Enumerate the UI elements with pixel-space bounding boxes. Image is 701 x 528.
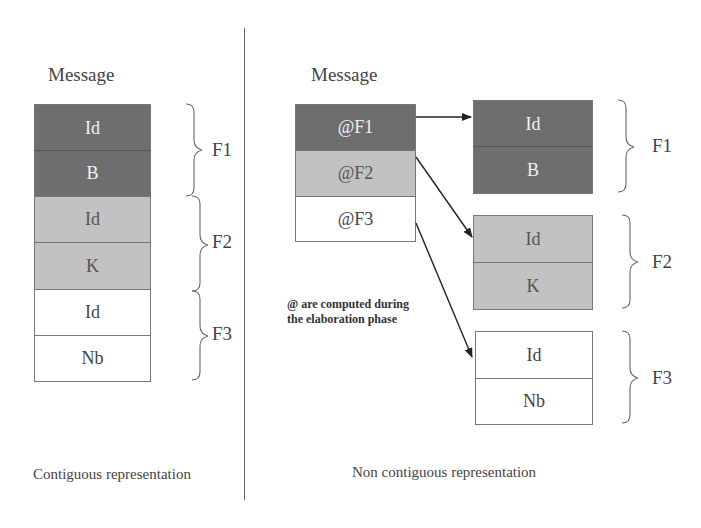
fragment-f2-k: K <box>473 262 593 310</box>
brace-left-f3 <box>192 291 208 380</box>
left-cell-f2-id: Id <box>34 196 151 243</box>
left-cell-f1-id: Id <box>34 104 151 151</box>
right-caption: Non contiguous representation <box>352 464 536 481</box>
fragment-f3-id: Id <box>475 331 593 379</box>
brace-right-f3 <box>622 331 638 423</box>
pointer-cell-f2: @F2 <box>295 150 416 197</box>
right-group-label-f2: F2 <box>652 251 672 273</box>
note-line-2: the elaboration phase <box>287 312 409 327</box>
diagram-canvas: Message Id B Id K Id Nb F1 F2 F3 Contigu… <box>0 0 701 528</box>
pointer-cell-f1: @F1 <box>295 104 416 151</box>
section-divider <box>244 28 245 500</box>
right-group-label-f3: F3 <box>652 367 672 389</box>
left-caption: Contiguous representation <box>33 466 191 483</box>
elaboration-note: @ are computed during the elaboration ph… <box>287 297 409 327</box>
arrow-f2 <box>416 157 472 237</box>
left-group-label-f3: F3 <box>212 323 232 345</box>
pointer-cell-f3: @F3 <box>295 196 416 242</box>
right-group-label-f1: F1 <box>652 135 672 157</box>
arrow-f3 <box>416 223 472 357</box>
left-group-label-f1: F1 <box>212 139 232 161</box>
fragment-f3-nb: Nb <box>475 378 593 425</box>
left-cell-f2-k: K <box>34 242 151 290</box>
left-message-title: Message <box>48 64 114 86</box>
left-group-label-f2: F2 <box>212 231 232 253</box>
fragment-f1-id: Id <box>473 100 593 147</box>
brace-right-f2 <box>622 215 638 308</box>
left-cell-f1-b: B <box>34 150 151 197</box>
brace-right-f1 <box>618 100 634 192</box>
fragment-f1-b: B <box>473 146 593 194</box>
note-line-1: @ are computed during <box>287 297 409 312</box>
left-cell-f3-nb: Nb <box>34 335 151 382</box>
brace-left-f1 <box>186 104 202 196</box>
right-message-title: Message <box>311 64 377 86</box>
brace-left-f2 <box>192 196 208 291</box>
left-cell-f3-id: Id <box>34 289 151 336</box>
fragment-f2-id: Id <box>473 215 593 263</box>
